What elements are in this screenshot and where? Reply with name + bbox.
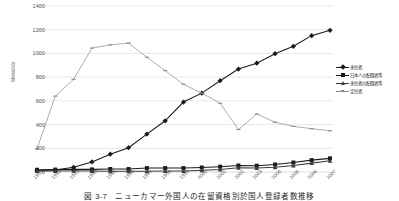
figure-caption: 図 3-7 ニューカマー外国人の在留資格別於国人登録者数推移 <box>0 190 399 201</box>
data-point <box>272 51 277 56</box>
chart-figure: 登録者数 1400 1200 1000 800 600 400 200 0 19… <box>0 0 399 201</box>
y-tick-label: 600 <box>19 98 45 104</box>
data-point <box>236 66 241 71</box>
legend-label: 定住者 <box>350 89 362 94</box>
legend-item-eijusha-no-haiguusha[interactable]: 永住者の配偶者等 <box>336 79 399 87</box>
data-point <box>254 61 259 66</box>
data-point <box>291 44 296 49</box>
series-line <box>37 43 330 149</box>
legend-label: 永住者 <box>350 65 362 70</box>
y-tick-label: 200 <box>19 145 45 151</box>
legend-marker-square-icon <box>336 71 349 79</box>
legend-marker-diamond-icon <box>336 63 349 71</box>
legend-item-teijusha[interactable]: 定住者 <box>336 87 399 95</box>
series-3 <box>35 43 332 149</box>
y-tick-label: 1000 <box>19 50 45 56</box>
legend-label: 永住者の配偶者等 <box>350 81 382 86</box>
y-tick-label: 1400 <box>19 3 45 9</box>
y-tick-label: 800 <box>19 74 45 80</box>
legend-marker-triangle-icon <box>336 79 349 87</box>
legend-marker-dash-icon <box>336 87 349 95</box>
data-point <box>108 152 113 157</box>
y-tick-label: 400 <box>19 122 45 128</box>
legend-label: 日本人の配偶者等 <box>350 73 382 78</box>
legend-item-eijusha[interactable]: 永住者 <box>336 63 399 71</box>
data-point <box>309 33 314 38</box>
legend-item-nihonjin-no-haiguusha[interactable]: 日本人の配偶者等 <box>336 71 399 79</box>
y-tick-label: 1200 <box>19 27 45 33</box>
data-point <box>327 28 332 33</box>
chart-legend: 永住者 日本人の配偶者等 永住者の配偶者等 定住者 <box>336 63 399 95</box>
data-point <box>89 159 94 164</box>
